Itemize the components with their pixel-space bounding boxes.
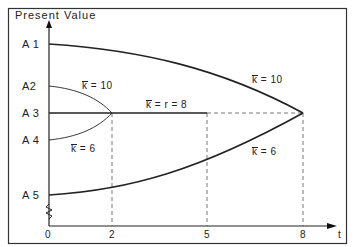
level-label-a2: A2	[22, 80, 36, 92]
annotation-k10-upper: k = 10	[82, 80, 113, 91]
x-tick-5: 5	[204, 229, 210, 240]
annotation-k10-right: k = 10	[252, 74, 283, 85]
x-axis-title: t	[338, 229, 341, 240]
y-axis-arrow-icon	[46, 20, 52, 28]
present-value-chart: Present Value A 1 A2 A 3 A 4 A 5 k = 10 …	[0, 0, 355, 247]
curve-a4-k6	[49, 113, 112, 140]
level-label-a1: A 1	[22, 38, 39, 50]
x-tick-8: 8	[300, 229, 306, 240]
chart-canvas	[0, 0, 355, 247]
y-axis-title: Present Value	[15, 9, 96, 21]
reference-lines	[112, 113, 303, 226]
annotation-k-r8: k = r = 8	[146, 99, 187, 110]
annotation-k6-right: k = 6	[252, 146, 276, 157]
x-tick-2: 2	[109, 229, 115, 240]
chart-frame	[9, 9, 347, 244]
annotation-k6-lower: k = 6	[71, 143, 95, 154]
x-tick-0: 0	[45, 229, 51, 240]
level-label-a3: A 3	[22, 107, 39, 119]
level-label-a5: A 5	[22, 189, 39, 201]
x-axis-arrow-icon	[327, 223, 337, 229]
level-label-a4: A 4	[22, 134, 39, 146]
